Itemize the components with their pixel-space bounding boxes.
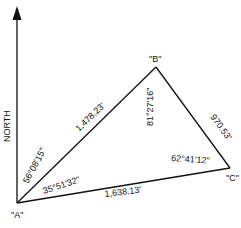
side-ab-length: 1,478.23' (73, 101, 107, 134)
angle-a-interior: 35°51'32" (42, 174, 82, 195)
angle-a-bearing: 56°08'15" (21, 146, 48, 185)
traverse-diagram: NORTH "A" "B" "C" 1,478.23' 970.53' 1,63… (0, 0, 241, 228)
angle-c: 62°41'12" (171, 153, 210, 166)
north-label: NORTH (2, 110, 12, 142)
point-a-label: "A" (11, 210, 23, 220)
side-ac-length: 1,638.13' (104, 185, 142, 199)
point-c-label: "C" (226, 173, 239, 183)
side-bc-length: 970.53' (208, 112, 233, 142)
side-ab (17, 67, 156, 203)
angle-b: 81°27'16" (145, 87, 155, 126)
north-arrow-head-icon (13, 6, 22, 20)
point-b-label: "B" (149, 54, 161, 64)
